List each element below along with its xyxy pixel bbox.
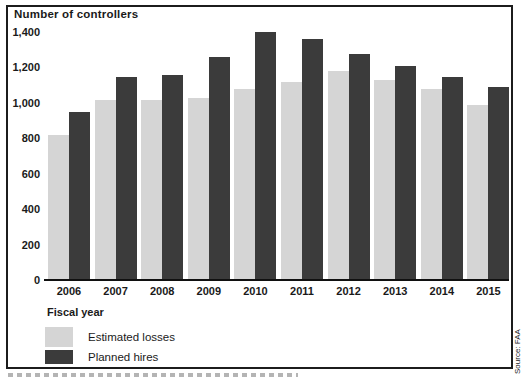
y-axis-tick-label: 1,400 — [0, 25, 40, 39]
bar-planned-hires-2010 — [255, 32, 276, 279]
bar-planned-hires-2008 — [162, 75, 183, 279]
x-axis-tick-label: 2007 — [92, 285, 140, 297]
bar-estimated-losses-2009 — [188, 98, 209, 279]
bar-estimated-losses-2007 — [95, 100, 116, 279]
bar-estimated-losses-2006 — [48, 135, 69, 279]
x-axis-title: Fiscal year — [47, 306, 104, 318]
x-axis-tick-label: 2010 — [231, 285, 279, 297]
bar-estimated-losses-2015 — [467, 105, 488, 279]
bar-planned-hires-2012 — [349, 54, 370, 279]
cropped-caption-remnant — [8, 373, 298, 377]
bar-planned-hires-2014 — [442, 77, 463, 279]
legend-swatch-planned-hires — [45, 350, 73, 364]
y-axis-tick-label: 200 — [0, 238, 40, 252]
bar-planned-hires-2015 — [488, 87, 509, 279]
legend-swatch-estimated-losses — [45, 327, 73, 347]
legend-item: Planned hires — [45, 350, 175, 364]
legend: Estimated lossesPlanned hires — [45, 327, 175, 364]
x-axis-tick-label: 2012 — [325, 285, 373, 297]
x-axis-tick-label: 2009 — [185, 285, 233, 297]
bar-estimated-losses-2012 — [328, 71, 349, 279]
legend-label: Planned hires — [88, 351, 158, 363]
legend-label: Estimated losses — [88, 331, 175, 343]
x-axis-tick-label: 2013 — [371, 285, 419, 297]
bar-estimated-losses-2014 — [421, 89, 442, 279]
x-axis-tick-label: 2014 — [418, 285, 466, 297]
y-axis-tick-label: 0 — [0, 273, 40, 287]
x-axis-tick-label: 2011 — [278, 285, 326, 297]
x-axis-tick-label: 2006 — [45, 285, 93, 297]
bar-planned-hires-2009 — [209, 57, 230, 279]
y-axis-tick-label: 1,000 — [0, 96, 40, 110]
bar-estimated-losses-2011 — [281, 82, 302, 279]
y-axis-tick-label: 800 — [0, 131, 40, 145]
y-axis-tick-label: 600 — [0, 167, 40, 181]
bar-estimated-losses-2008 — [141, 100, 162, 279]
x-axis-tick-label: 2008 — [138, 285, 186, 297]
bar-planned-hires-2011 — [302, 39, 323, 279]
x-axis-line — [44, 279, 509, 281]
y-axis-tick-label: 400 — [0, 202, 40, 216]
faa-controllers-figure: Number of controllers 02004006008001,000… — [0, 0, 523, 377]
bar-estimated-losses-2013 — [374, 80, 395, 279]
bar-planned-hires-2013 — [395, 66, 416, 279]
bar-planned-hires-2006 — [69, 112, 90, 279]
bar-estimated-losses-2010 — [234, 89, 255, 279]
x-axis-tick-label: 2015 — [464, 285, 512, 297]
legend-item: Estimated losses — [45, 327, 175, 347]
plot-area: 02004006008001,0001,2001,400200620072008… — [0, 0, 523, 377]
bar-planned-hires-2007 — [116, 77, 137, 279]
y-axis-tick-label: 1,200 — [0, 60, 40, 74]
source-credit: Source: FAA — [513, 329, 522, 374]
